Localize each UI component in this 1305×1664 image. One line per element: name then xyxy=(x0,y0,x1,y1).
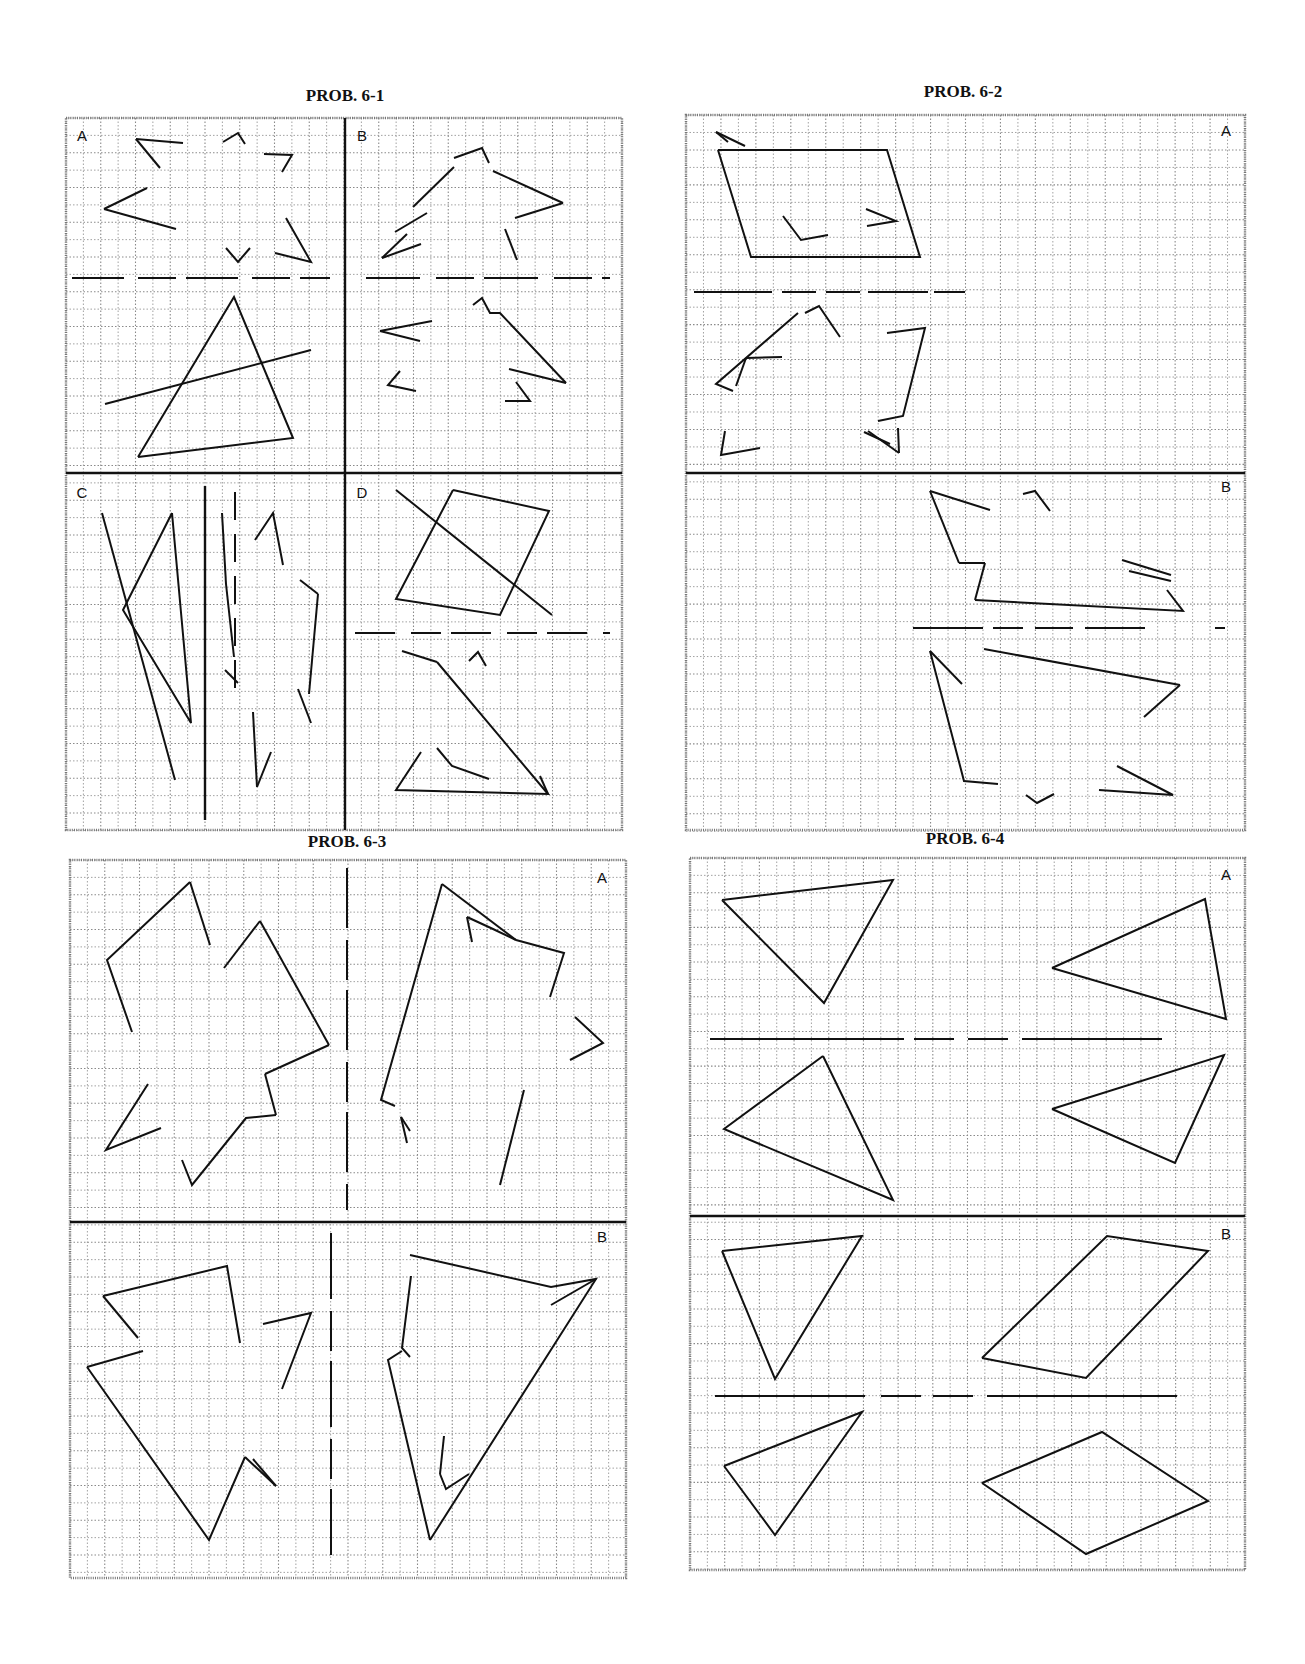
figure-segment xyxy=(1052,1055,1224,1163)
figure-segment xyxy=(104,209,176,229)
quadrant-label: A xyxy=(77,127,87,144)
figure-segment xyxy=(930,491,990,510)
figure-segment xyxy=(898,428,899,453)
figure-segment xyxy=(454,148,489,163)
problem-panel-6-3: AB xyxy=(70,860,626,1578)
quadrant-label: B xyxy=(1221,1225,1231,1242)
figure-segment xyxy=(1023,491,1050,511)
problem-panel-6-2: AB xyxy=(686,115,1245,831)
figure-segment xyxy=(570,1017,603,1060)
worksheet-canvas: ABCDABABAB xyxy=(0,0,1305,1664)
figure-segment xyxy=(864,432,890,444)
figure-segment xyxy=(223,133,245,144)
figure-segment xyxy=(388,1351,430,1540)
figure-segment xyxy=(975,590,1183,611)
figure-segment xyxy=(182,1115,276,1185)
figure-segment xyxy=(264,154,292,172)
figure-segment xyxy=(500,1090,524,1185)
figure-segment xyxy=(225,670,238,683)
quadrant-label: A xyxy=(597,869,607,886)
figure-segment xyxy=(381,884,442,1106)
figure-segment xyxy=(103,1296,138,1338)
figure-segment xyxy=(136,139,183,143)
figure-segment xyxy=(87,1351,143,1367)
figure-segment xyxy=(1052,899,1226,1019)
figure-segment xyxy=(410,1255,596,1540)
figure-segment xyxy=(722,880,893,1003)
figure-segment xyxy=(402,1276,411,1357)
grid xyxy=(690,858,1245,1570)
figure-segment xyxy=(265,1045,329,1074)
quadrant-label: B xyxy=(597,1228,607,1245)
figure-segment xyxy=(253,1459,276,1486)
figure-segment xyxy=(975,563,985,600)
figure-segment xyxy=(722,1236,862,1379)
figure-segment xyxy=(746,357,782,358)
quadrant-label: A xyxy=(1221,866,1231,883)
figure-segment xyxy=(255,513,283,565)
figure-segment xyxy=(505,229,517,260)
figure-segment xyxy=(226,584,234,657)
figure-segment xyxy=(388,371,416,391)
quadrant-label: B xyxy=(357,127,367,144)
figure-segment xyxy=(402,651,437,662)
figure-segment xyxy=(253,712,257,787)
figure-segment xyxy=(437,748,489,779)
quadrant-label: B xyxy=(1221,478,1231,495)
figure-segment xyxy=(1099,766,1173,795)
figure-segment xyxy=(190,882,210,945)
figure-segment xyxy=(930,651,998,784)
figure-segment xyxy=(930,491,959,563)
figure-segment xyxy=(1026,794,1054,803)
problem-panel-6-1: ABCD xyxy=(66,118,622,830)
figure-segment xyxy=(87,1367,245,1540)
figure-segment xyxy=(982,1432,1208,1554)
figure-segment xyxy=(104,188,147,209)
figure-segment xyxy=(866,209,896,226)
figure-segment xyxy=(263,1313,311,1389)
quadrant-label: C xyxy=(77,484,88,501)
problem-panel-6-4: AB xyxy=(690,858,1245,1570)
figure-segment xyxy=(718,150,920,257)
figure-segment xyxy=(716,132,745,146)
figure-segment xyxy=(102,513,175,780)
figure-segment xyxy=(396,662,548,794)
figure-segment xyxy=(138,297,293,457)
figure-segment xyxy=(103,1266,240,1343)
figure-segment xyxy=(724,1056,893,1200)
figure-segment xyxy=(136,139,160,168)
figure-segment xyxy=(224,921,260,968)
panel-border xyxy=(690,858,1245,1570)
figure-segment xyxy=(265,1074,276,1115)
figure-segment xyxy=(260,921,329,1045)
figure-segment xyxy=(309,594,318,694)
figure-segment xyxy=(721,431,760,455)
quadrant-label: A xyxy=(1221,122,1231,139)
figure-segment xyxy=(226,248,250,262)
figure-segment xyxy=(257,752,271,787)
figure-segment xyxy=(984,649,1180,685)
figure-segment xyxy=(106,1084,161,1150)
figure-segment xyxy=(107,882,190,1032)
figure-segment xyxy=(805,306,840,337)
quadrant-label: D xyxy=(357,484,368,501)
figure-segment xyxy=(1122,560,1171,575)
